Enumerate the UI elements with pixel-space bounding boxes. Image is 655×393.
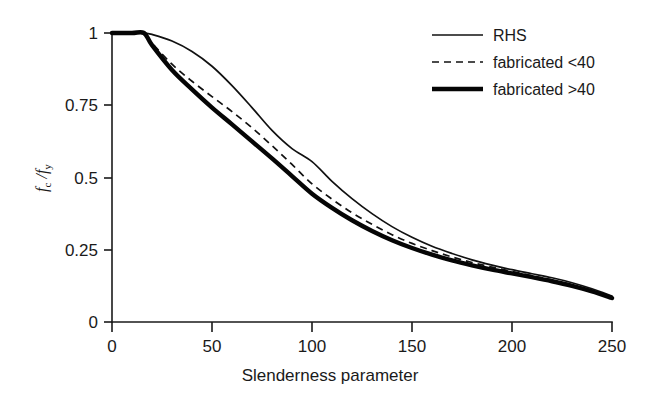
chart-svg: 1 0.75 0.5 0.25 0 0 50 100 150 200 250 S…: [0, 0, 655, 393]
x-axis-title: Slenderness parameter: [242, 366, 419, 385]
y-tick-label-075: 0.75: [65, 96, 98, 115]
y-tick-label-05: 0.5: [74, 169, 98, 188]
x-tick-label-0: 0: [107, 337, 116, 356]
chart-figure: 1 0.75 0.5 0.25 0 0 50 100 150 200 250 S…: [0, 0, 655, 393]
x-tick-label-100: 100: [298, 337, 326, 356]
y-tick-label-025: 0.25: [65, 241, 98, 260]
x-tick-label-150: 150: [398, 337, 426, 356]
legend-label-fabricated-lt40: fabricated <40: [493, 54, 595, 71]
x-tick-label-200: 200: [498, 337, 526, 356]
y-tick-label-1: 1: [89, 24, 98, 43]
x-tick-label-250: 250: [598, 337, 626, 356]
y-tick-label-0: 0: [89, 313, 98, 332]
x-tick-label-50: 50: [203, 337, 222, 356]
y-axis-title-sub-y: y: [41, 164, 53, 170]
legend-label-fabricated-gt40: fabricated >40: [493, 81, 595, 98]
legend-label-rhs: RHS: [493, 27, 527, 44]
